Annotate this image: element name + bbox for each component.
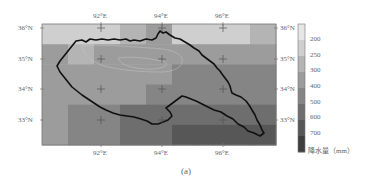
precipitation-map-figure: 92°E 94°E 96°E 92°E 94°E 96°E 36°N 35°N … <box>0 0 372 188</box>
grid-cell <box>120 24 147 45</box>
grid-cell <box>94 105 121 126</box>
grid-cell <box>94 64 121 85</box>
colorbar-segment <box>298 72 305 88</box>
colorbar-title: 降水量（mm） <box>308 148 354 155</box>
grid-cell <box>42 125 69 146</box>
grid-cell <box>198 64 225 85</box>
colorbar-label-300: 300 <box>310 67 321 74</box>
grid-cell <box>224 44 251 65</box>
right-tick-label-35n: 35°N <box>280 56 295 63</box>
grid-cell <box>68 125 95 146</box>
grid-cell <box>42 64 69 85</box>
grid-cell <box>42 85 69 106</box>
grid-cell <box>224 125 251 146</box>
top-tick-label-92e: 92°E <box>93 13 107 20</box>
colorbar <box>298 24 305 152</box>
grid-cell <box>250 85 277 106</box>
grid-cell <box>68 64 95 85</box>
grid-cell <box>250 44 277 65</box>
colorbar-label-500: 500 <box>310 99 321 106</box>
grid-cell <box>250 125 277 146</box>
grid-cell <box>146 85 173 106</box>
grid-cell <box>172 105 199 126</box>
grid-cell <box>42 105 69 126</box>
colorbar-label-250: 250 <box>310 52 321 59</box>
grid-cell <box>94 24 121 45</box>
right-tick-label-34n: 34°N <box>280 86 295 93</box>
grid-cell <box>250 24 277 45</box>
grid-cell <box>172 44 199 65</box>
colorbar-segment <box>298 56 305 72</box>
grid-cell <box>250 105 277 126</box>
top-tick-label-94e: 94°E <box>154 13 168 20</box>
figure-caption: (a) <box>0 166 372 176</box>
grid-cell <box>146 44 173 65</box>
colorbar-segment <box>298 24 305 40</box>
bottom-tick-label-96e: 96°E <box>215 150 229 157</box>
grid-cell <box>68 105 95 126</box>
grid-cell <box>224 24 251 45</box>
grid-cell <box>42 24 69 45</box>
grid-cell <box>198 125 225 146</box>
bottom-tick-label-92e: 92°E <box>93 150 107 157</box>
left-tick-label-33n: 33°N <box>18 117 33 124</box>
grid-cell <box>172 64 199 85</box>
grid-cell <box>94 44 121 65</box>
colorbar-label-600: 600 <box>310 114 321 121</box>
left-tick-label-35n: 35°N <box>18 56 33 63</box>
colorbar-label-700: 700 <box>310 130 321 137</box>
right-tick-label-36n: 36°N <box>280 25 295 32</box>
grid-cell <box>146 125 173 146</box>
bottom-tick-label-94e: 94°E <box>154 150 168 157</box>
grid-cell <box>146 64 173 85</box>
colorbar-segment <box>298 88 305 104</box>
colorbar-segment <box>298 120 305 136</box>
grid-cell <box>250 64 277 85</box>
grid-cell <box>172 125 199 146</box>
precipitation-grid <box>42 24 277 146</box>
grid-cell <box>120 125 147 146</box>
colorbar-label-400: 400 <box>310 83 321 90</box>
grid-cell <box>94 85 121 106</box>
right-tick-label-33n: 33°N <box>280 117 295 124</box>
grid-cell <box>198 24 225 45</box>
colorbar-label-200: 200 <box>310 36 321 43</box>
grid-cell <box>120 85 147 106</box>
grid-cell <box>68 24 95 45</box>
colorbar-segment <box>298 104 305 120</box>
top-tick-label-96e: 96°E <box>215 13 229 20</box>
left-tick-label-34n: 34°N <box>18 86 33 93</box>
grid-cell <box>172 85 199 106</box>
colorbar-segment <box>298 40 305 56</box>
colorbar-segment <box>298 136 305 152</box>
grid-cell <box>198 85 225 106</box>
map-canvas <box>0 0 372 188</box>
grid-cell <box>94 125 121 146</box>
left-tick-label-36n: 36°N <box>18 25 33 32</box>
